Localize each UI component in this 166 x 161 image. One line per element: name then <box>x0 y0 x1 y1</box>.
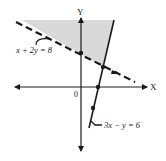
point-on-solid-line <box>91 106 95 110</box>
label-pointer-solid <box>91 121 102 125</box>
dashed-line-label: x + 2y = 8 <box>15 45 53 55</box>
solid-line-label: 3x − y = 6 <box>103 120 141 130</box>
point-x-intercept <box>96 85 100 89</box>
y-axis-label: Y <box>77 7 84 17</box>
origin-label: 0 <box>74 90 78 99</box>
inequality-graph: Y X 0 x + 2y = 8 3x − y = 6 <box>0 0 166 161</box>
point-intersection <box>101 65 105 69</box>
x-axis-label: X <box>150 82 157 92</box>
point-y-intercept <box>79 51 83 55</box>
dashed-line-arrow-icon <box>111 70 119 74</box>
